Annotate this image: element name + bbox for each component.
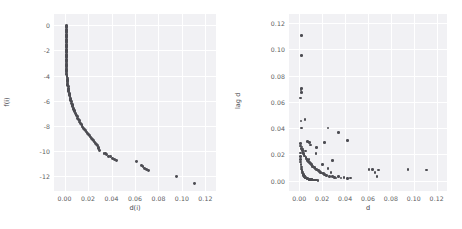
y-tick-label: 0.10 xyxy=(231,46,285,53)
data-point xyxy=(300,34,303,37)
data-point xyxy=(425,169,428,172)
gridline-vertical xyxy=(182,14,183,191)
x-tick-label: 0.08 xyxy=(384,195,398,202)
x-tick-label: 0.00 xyxy=(57,195,71,202)
gridline-horizontal xyxy=(289,154,447,155)
gridline-horizontal xyxy=(289,102,447,103)
y-tick-label: -8 xyxy=(0,122,50,129)
gridline-vertical xyxy=(112,14,113,191)
axes-right xyxy=(289,14,447,191)
gridline-horizontal xyxy=(289,128,447,129)
y-tick-label: 0.00 xyxy=(231,177,285,184)
two-panel-figure: 0.000.020.040.060.080.100.120-2-4-6-8-10… xyxy=(0,0,462,229)
gridline-vertical xyxy=(88,14,89,191)
gridline-vertical xyxy=(135,14,136,191)
y-tick-label: -4 xyxy=(0,72,50,79)
data-point xyxy=(368,168,371,171)
x-tick-label: 0.06 xyxy=(128,195,142,202)
x-tick-label: 0.00 xyxy=(292,195,306,202)
x-tick-label: 0.12 xyxy=(198,195,212,202)
y-tick-label: -10 xyxy=(0,147,50,154)
gridline-horizontal xyxy=(54,50,216,51)
data-point xyxy=(299,152,302,155)
data-point xyxy=(147,169,150,172)
data-point xyxy=(175,175,178,178)
data-point xyxy=(98,149,101,152)
gridline-horizontal xyxy=(54,25,216,26)
data-point xyxy=(349,177,352,180)
data-point xyxy=(315,146,318,149)
data-point xyxy=(304,150,307,153)
x-tick-label: 0.04 xyxy=(104,195,118,202)
data-point xyxy=(377,169,380,172)
gridline-horizontal xyxy=(289,76,447,77)
data-point xyxy=(317,179,320,182)
data-point xyxy=(330,171,333,174)
data-point xyxy=(331,159,334,162)
data-point xyxy=(321,163,324,166)
data-point xyxy=(300,91,303,94)
y-tick-label: 0.04 xyxy=(231,125,285,132)
y-tick-label: 0.02 xyxy=(231,151,285,158)
data-point xyxy=(300,120,303,123)
y-tick-label: -2 xyxy=(0,47,50,54)
x-tick-label: 0.10 xyxy=(175,195,189,202)
x-tick-label: 0.02 xyxy=(315,195,329,202)
gridline-horizontal xyxy=(54,126,216,127)
gridline-horizontal xyxy=(54,151,216,152)
y-tick-label: 0 xyxy=(0,22,50,29)
gridline-horizontal xyxy=(289,23,447,24)
y-tick-label: 0.08 xyxy=(231,72,285,79)
y-tick-label: -12 xyxy=(0,172,50,179)
axes-left xyxy=(54,14,216,191)
data-point xyxy=(300,54,303,57)
x-tick-label: 0.08 xyxy=(151,195,165,202)
data-point xyxy=(193,182,196,185)
data-point xyxy=(407,168,410,171)
x-axis-title-right: d xyxy=(366,204,370,212)
x-tick-label: 0.12 xyxy=(430,195,444,202)
data-point xyxy=(309,144,312,147)
data-point xyxy=(374,171,377,174)
data-point xyxy=(327,167,330,170)
data-point xyxy=(300,87,303,90)
x-axis-title-left: d(i) xyxy=(129,204,140,212)
x-tick-label: 0.06 xyxy=(361,195,375,202)
data-point xyxy=(376,175,379,178)
data-point xyxy=(308,158,311,161)
x-tick-label: 0.02 xyxy=(81,195,95,202)
data-point xyxy=(346,139,349,142)
x-tick-label: 0.04 xyxy=(338,195,352,202)
gridline-vertical xyxy=(205,14,206,191)
data-point xyxy=(343,176,346,179)
gridline-horizontal xyxy=(289,49,447,50)
panel-left: 0.000.020.040.060.080.100.120-2-4-6-8-10… xyxy=(0,0,231,229)
gridline-horizontal xyxy=(54,101,216,102)
panel-right: 0.000.020.040.060.080.100.120.000.020.04… xyxy=(231,0,462,229)
y-axis-title-left: f(i) xyxy=(3,95,11,109)
y-tick-label: 0.12 xyxy=(231,20,285,27)
data-point xyxy=(135,160,138,163)
data-point xyxy=(346,177,349,180)
gridline-horizontal xyxy=(289,181,447,182)
data-point xyxy=(304,118,307,121)
gridline-horizontal xyxy=(54,176,216,177)
y-axis-title-right: lag d xyxy=(234,95,242,109)
gridline-vertical xyxy=(158,14,159,191)
data-point xyxy=(299,155,302,158)
x-tick-label: 0.10 xyxy=(407,195,421,202)
data-point xyxy=(323,141,326,144)
gridline-horizontal xyxy=(54,76,216,77)
data-point xyxy=(115,159,118,162)
data-point xyxy=(337,131,340,134)
data-point xyxy=(299,97,302,100)
